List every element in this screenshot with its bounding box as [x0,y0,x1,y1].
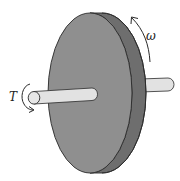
angular-velocity-label: ω [146,29,156,43]
torque-label: T [9,90,18,104]
disk-shaft-diagram: T ω [0,0,180,181]
shaft-end-cap [28,92,40,105]
